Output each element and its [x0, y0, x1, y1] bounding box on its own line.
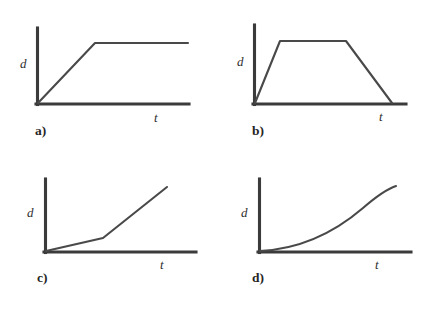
panel-d-caption: d) — [252, 271, 264, 285]
panel-d-y-axis-label: d — [241, 206, 248, 219]
panel-a-caption: a) — [35, 124, 46, 138]
panel-b-x-axis-label: t — [379, 110, 383, 123]
panel-c: d t c) — [0, 156, 215, 313]
panel-a: d t a) — [0, 0, 215, 156]
panel-d-curve — [260, 186, 396, 251]
panel-a-plot — [0, 0, 215, 156]
panel-a-curve — [38, 43, 188, 103]
panel-c-plot — [0, 156, 215, 313]
panel-d: d t d) — [215, 156, 430, 313]
panel-b-caption: b) — [252, 124, 264, 138]
panel-b-plot — [215, 0, 430, 156]
panel-a-y-axis-label: d — [20, 57, 27, 70]
panel-c-curve — [46, 187, 167, 251]
panel-a-x-axis-label: t — [154, 111, 158, 124]
panel-d-x-axis-label: t — [375, 258, 379, 271]
panel-b: d t b) — [215, 0, 430, 156]
panel-b-y-axis-label: d — [237, 55, 244, 68]
panel-d-plot — [215, 156, 430, 313]
panel-b-curve — [255, 41, 392, 103]
panel-c-y-axis-label: d — [27, 206, 34, 219]
panel-c-caption: c) — [37, 271, 48, 285]
panel-c-x-axis-label: t — [160, 258, 164, 271]
figure-root: d t a) d t b) d t c) d t d) — [0, 0, 430, 313]
